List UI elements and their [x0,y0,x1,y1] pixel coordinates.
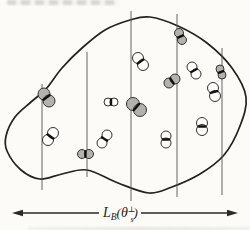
dimer-bond-mark [219,71,224,73]
dimer-11-white [97,130,112,148]
dimer-8-white [104,98,118,106]
dimer-3-gray [175,29,187,45]
dimer-bond-mark [211,91,218,93]
label-paren-close: ) [133,205,138,220]
dimers-group [38,29,226,159]
blob-outline [5,17,246,193]
arrowhead-left-icon [12,210,23,216]
dimer-7-gray [164,74,180,88]
dimer-13-white [197,118,208,136]
dimer-6-white [208,83,221,102]
blob-dimer-diagram: LB(θ⊥s) [0,0,250,230]
dimer-5-gray [216,65,226,79]
width-label-text: LB(θ⊥s) [102,205,138,224]
dimer-9-gray [127,98,147,117]
dimer-2-white [133,53,149,71]
dimer-10-white [43,128,59,146]
dimer-14-gray [78,150,94,159]
dimer-1-gray [38,88,55,107]
label-L: L [102,205,111,220]
arrowhead-right-icon [227,210,238,216]
scanned-figure-page: LB(θ⊥s) [0,0,250,230]
scan-smudge-artifact [28,227,250,230]
dimer-12-white [161,131,171,148]
dimer-4-white [187,62,201,79]
